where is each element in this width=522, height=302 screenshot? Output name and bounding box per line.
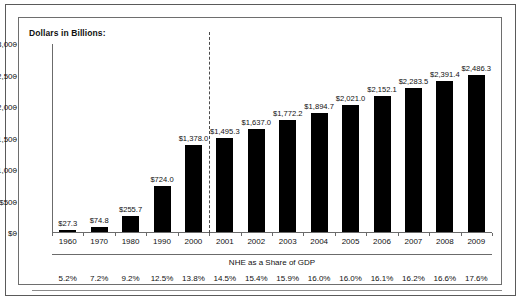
x-tick-mark bbox=[209, 233, 210, 236]
gdp-share-value: 15.4% bbox=[245, 274, 268, 283]
bar-value-label: $2,486.3 bbox=[462, 64, 492, 73]
x-axis-year-labels: 1960197019801990200020012002200320042005… bbox=[52, 237, 492, 251]
x-tick-mark bbox=[492, 233, 493, 236]
y-axis-tick-labels: $3,000$2,500$2,000$1,500$1,000$500$0 bbox=[0, 44, 17, 233]
y-axis-line bbox=[52, 44, 53, 233]
bar-value-label: $1,495.3 bbox=[210, 127, 240, 136]
bar bbox=[374, 96, 391, 232]
bar bbox=[279, 120, 296, 232]
x-tick-mark bbox=[461, 233, 462, 236]
bar bbox=[216, 138, 233, 232]
x-tick-mark bbox=[178, 233, 179, 236]
bar bbox=[436, 81, 453, 232]
bar bbox=[122, 216, 139, 232]
y-tick-mark bbox=[14, 44, 17, 45]
gdp-share-value: 7.2% bbox=[90, 274, 108, 283]
x-axis-year-label: 1990 bbox=[153, 237, 171, 246]
y-tick-mark bbox=[14, 139, 17, 140]
gdp-share-value: 16.1% bbox=[371, 274, 394, 283]
y-tick-mark bbox=[14, 202, 17, 203]
gdp-share-value: 13.8% bbox=[182, 274, 205, 283]
y-tick-mark bbox=[14, 170, 17, 171]
x-tick-mark bbox=[429, 233, 430, 236]
bottom-rule bbox=[32, 290, 502, 291]
x-axis-year-label: 2006 bbox=[373, 237, 391, 246]
figure-inner-frame: Dollars in Billions: $3,000$2,500$2,000$… bbox=[18, 17, 502, 285]
bar-value-label: $2,021.0 bbox=[336, 94, 366, 103]
separator-rule bbox=[52, 254, 492, 255]
figure-outer-frame: Dollars in Billions: $3,000$2,500$2,000$… bbox=[5, 4, 516, 296]
x-axis-year-label: 1960 bbox=[59, 237, 77, 246]
x-tick-mark bbox=[335, 233, 336, 236]
y-tick-mark bbox=[14, 233, 17, 234]
gdp-share-value: 16.0% bbox=[339, 274, 362, 283]
x-tick-mark bbox=[52, 233, 53, 236]
x-tick-mark bbox=[115, 233, 116, 236]
x-tick-mark bbox=[303, 233, 304, 236]
x-axis-year-label: 1970 bbox=[90, 237, 108, 246]
x-axis-year-label: 2009 bbox=[467, 237, 485, 246]
bar bbox=[91, 227, 108, 232]
x-axis-year-label: 2005 bbox=[342, 237, 360, 246]
bar bbox=[59, 230, 76, 232]
bar bbox=[185, 145, 202, 232]
x-axis-year-label: 2002 bbox=[247, 237, 265, 246]
x-axis-year-label: 2007 bbox=[405, 237, 423, 246]
gdp-share-value: 12.5% bbox=[151, 274, 174, 283]
x-axis-year-label: 1980 bbox=[122, 237, 140, 246]
y-axis-title: Dollars in Billions: bbox=[29, 28, 106, 38]
x-tick-mark bbox=[146, 233, 147, 236]
x-tick-mark bbox=[366, 233, 367, 236]
bar-value-label: $1,378.0 bbox=[179, 134, 209, 143]
y-tick-mark bbox=[14, 107, 17, 108]
gdp-share-value: 16.2% bbox=[402, 274, 425, 283]
x-axis-year-label: 2000 bbox=[185, 237, 203, 246]
x-tick-mark bbox=[83, 233, 84, 236]
gdp-share-value: 16.6% bbox=[434, 274, 457, 283]
bar bbox=[248, 129, 265, 232]
gdp-share-value: 15.9% bbox=[276, 274, 299, 283]
x-axis-year-label: 2008 bbox=[436, 237, 454, 246]
plot-area: $27.3$74.8$255.7$724.0$1,378.0$1,495.3$1… bbox=[52, 44, 492, 233]
bar-value-label: $74.8 bbox=[90, 216, 109, 225]
bar bbox=[154, 186, 171, 232]
x-axis-year-label: 2003 bbox=[279, 237, 297, 246]
bar bbox=[342, 105, 359, 232]
bar-value-label: $2,283.5 bbox=[399, 77, 429, 86]
y-tick-mark bbox=[14, 76, 17, 77]
bar-value-label: $724.0 bbox=[150, 175, 173, 184]
bar bbox=[468, 75, 485, 232]
secondary-axis-title: NHE as a Share of GDP bbox=[52, 258, 492, 267]
gdp-share-value: 9.2% bbox=[121, 274, 139, 283]
gdp-share-value: 14.5% bbox=[214, 274, 237, 283]
bar-value-label: $1,637.0 bbox=[242, 118, 272, 127]
gdp-share-value: 5.2% bbox=[59, 274, 77, 283]
x-tick-mark bbox=[272, 233, 273, 236]
bar-value-label: $255.7 bbox=[119, 205, 142, 214]
gdp-share-values: 5.2%7.2%9.2%12.5%13.8%14.5%15.4%15.9%16.… bbox=[52, 274, 492, 288]
bar-value-label: $1,894.7 bbox=[304, 102, 334, 111]
bar-value-label: $1,772.2 bbox=[273, 109, 303, 118]
x-axis-year-label: 2001 bbox=[216, 237, 234, 246]
bar bbox=[405, 88, 422, 232]
bar-value-label: $2,391.4 bbox=[430, 70, 460, 79]
bar-value-label: $2,152.1 bbox=[367, 85, 397, 94]
x-axis-year-label: 2004 bbox=[310, 237, 328, 246]
x-tick-mark bbox=[398, 233, 399, 236]
x-tick-mark bbox=[241, 233, 242, 236]
gdp-share-value: 17.6% bbox=[465, 274, 488, 283]
gdp-share-value: 16.0% bbox=[308, 274, 331, 283]
bar-value-label: $27.3 bbox=[58, 219, 77, 228]
bar bbox=[311, 113, 328, 232]
period-divider-line bbox=[209, 32, 210, 233]
